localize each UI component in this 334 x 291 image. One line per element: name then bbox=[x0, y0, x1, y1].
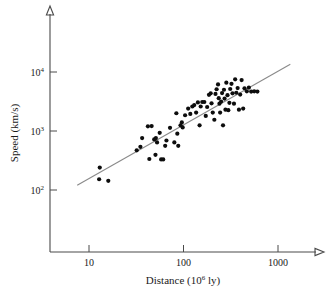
x-axis-arrow-icon bbox=[315, 248, 324, 255]
data-point bbox=[168, 126, 172, 130]
data-point bbox=[238, 92, 242, 96]
y-tick-label: 103 bbox=[31, 125, 45, 137]
data-point bbox=[188, 112, 192, 116]
data-point bbox=[212, 118, 216, 122]
data-point bbox=[197, 123, 201, 127]
data-point bbox=[138, 145, 142, 149]
data-point bbox=[216, 82, 220, 86]
data-point bbox=[224, 81, 228, 85]
data-point bbox=[192, 103, 196, 107]
x-tick-label: 10 bbox=[84, 257, 94, 268]
data-point bbox=[106, 179, 110, 183]
data-point bbox=[209, 91, 213, 95]
data-point bbox=[98, 165, 102, 169]
data-point bbox=[217, 96, 221, 100]
axes-group bbox=[46, 6, 324, 256]
data-point bbox=[233, 77, 237, 81]
data-point bbox=[237, 108, 241, 112]
scatter-plot-figure: 102103104 101001000 Distance (106 ly) Sp… bbox=[0, 0, 334, 291]
data-point bbox=[236, 86, 240, 90]
data-point bbox=[228, 87, 232, 91]
y-axis-arrow-icon bbox=[46, 6, 53, 15]
x-tick-label: 1000 bbox=[268, 257, 288, 268]
data-point bbox=[225, 93, 229, 97]
y-tick-exponent: 3 bbox=[41, 125, 45, 133]
data-point bbox=[245, 89, 249, 93]
data-point bbox=[209, 101, 213, 105]
data-point bbox=[204, 114, 208, 118]
data-point bbox=[222, 96, 226, 100]
data-point bbox=[232, 102, 236, 106]
data-point bbox=[155, 140, 159, 144]
data-point bbox=[183, 113, 187, 117]
data-point bbox=[97, 177, 101, 181]
data-point bbox=[163, 144, 167, 148]
y-tick-label: 102 bbox=[31, 184, 45, 196]
y-tick-label: 104 bbox=[31, 66, 45, 78]
data-point bbox=[230, 91, 234, 95]
data-point bbox=[241, 106, 245, 110]
data-point bbox=[135, 148, 139, 152]
data-point bbox=[181, 125, 185, 129]
data-point bbox=[213, 92, 217, 96]
data-point bbox=[175, 132, 179, 136]
data-point bbox=[205, 105, 209, 109]
data-point bbox=[226, 108, 230, 112]
data-point bbox=[140, 136, 144, 140]
y-axis-title: Speed (km/s) bbox=[8, 103, 21, 162]
data-point bbox=[176, 144, 180, 148]
data-point bbox=[202, 100, 206, 104]
data-point bbox=[227, 101, 231, 105]
data-point bbox=[221, 123, 225, 127]
trend-line-group bbox=[77, 64, 290, 185]
x-tick-label: 100 bbox=[176, 257, 191, 268]
data-point bbox=[247, 85, 251, 89]
data-points-group bbox=[97, 77, 259, 183]
data-point bbox=[240, 78, 244, 82]
data-point bbox=[219, 99, 223, 103]
trend-line bbox=[77, 64, 290, 185]
data-point bbox=[214, 87, 218, 91]
data-point bbox=[199, 104, 203, 108]
data-point bbox=[211, 111, 215, 115]
data-point bbox=[229, 82, 233, 86]
data-point bbox=[146, 124, 150, 128]
y-axis-ticks: 102103104 bbox=[31, 66, 58, 196]
plot-canvas: 102103104 101001000 Distance (106 ly) Sp… bbox=[0, 0, 334, 291]
data-point bbox=[194, 111, 198, 115]
data-point bbox=[164, 138, 168, 142]
data-point bbox=[234, 91, 238, 95]
x-axis-ticks: 101001000 bbox=[84, 245, 288, 268]
data-point bbox=[196, 100, 200, 104]
data-point bbox=[153, 153, 157, 157]
data-point bbox=[150, 124, 154, 128]
data-point bbox=[158, 131, 162, 135]
data-point bbox=[161, 157, 165, 161]
data-point bbox=[222, 88, 226, 92]
x-axis-title-tail: ly) bbox=[205, 274, 220, 287]
data-point bbox=[174, 111, 178, 115]
x-axis-title: Distance (106 ly) bbox=[146, 274, 221, 287]
data-point bbox=[154, 136, 158, 140]
data-point bbox=[172, 140, 176, 144]
data-point bbox=[180, 120, 184, 124]
y-tick-exponent: 4 bbox=[41, 66, 45, 74]
data-point bbox=[186, 106, 190, 110]
data-point bbox=[147, 157, 151, 161]
data-point bbox=[255, 90, 259, 94]
data-point bbox=[218, 111, 222, 115]
y-tick-exponent: 2 bbox=[41, 184, 45, 192]
